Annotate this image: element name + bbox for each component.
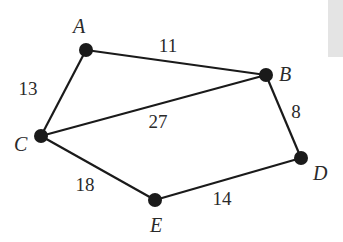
edge-c-e [41,136,155,200]
node-a [79,43,93,57]
node-label-d: D [312,162,328,184]
edge-weight-a-b: 11 [159,35,177,56]
node-label-c: C [14,133,28,155]
node-e [148,193,162,207]
node-c [34,129,48,143]
edge-weight-c-b: 27 [149,111,168,132]
edge-weight-c-e: 18 [76,174,95,195]
node-label-a: A [71,15,86,37]
graph-diagram: 11132781814 ABCDE [0,0,343,242]
node-d [294,151,308,165]
node-b [259,68,273,82]
edge-weight-b-d: 8 [291,101,301,122]
node-label-b: B [279,63,291,85]
gray-side-strip [328,0,343,57]
edge-weight-e-d: 14 [213,188,233,209]
node-label-e: E [149,214,162,236]
edge-weight-a-c: 13 [19,78,38,99]
edge-a-c [41,50,86,136]
